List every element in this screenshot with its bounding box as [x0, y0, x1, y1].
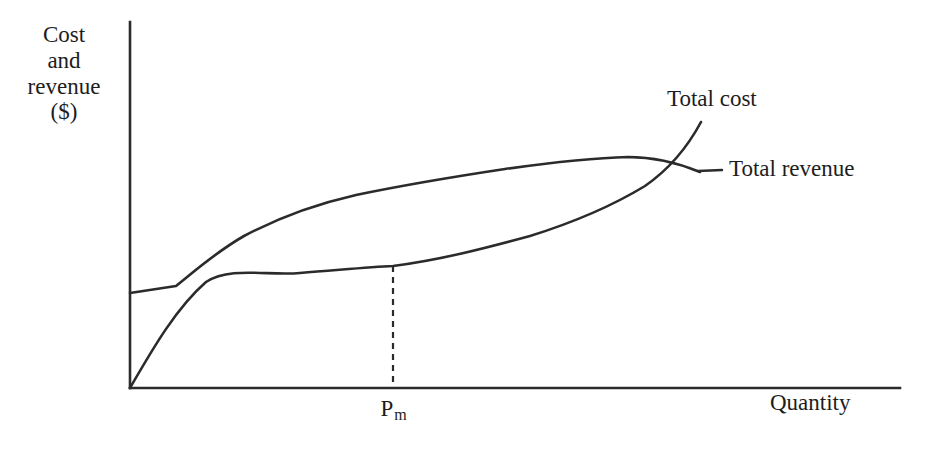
- pm-axis-label: Pm: [353, 396, 433, 422]
- total-revenue-curve: [130, 157, 700, 293]
- pm-label-subscript: m: [394, 406, 406, 423]
- y-axis-title-line-1: Cost: [8, 22, 120, 48]
- total-revenue-leader-line: [698, 170, 722, 171]
- y-axis-title-line-2: and: [8, 48, 120, 74]
- chart-figure: Cost and revenue ($) Quantity Total cost…: [0, 0, 928, 457]
- y-axis-title-line-4: ($): [8, 99, 120, 125]
- chart-canvas: [0, 0, 928, 457]
- total-revenue-label: Total revenue: [729, 156, 854, 182]
- x-axis-title: Quantity: [770, 390, 851, 416]
- y-axis-title-line-3: revenue: [8, 74, 120, 100]
- y-axis-title: Cost and revenue ($): [8, 22, 120, 125]
- pm-label-main: P: [380, 396, 393, 421]
- total-cost-label: Total cost: [667, 86, 757, 112]
